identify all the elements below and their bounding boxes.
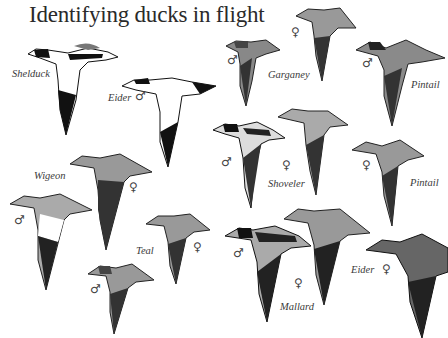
male-symbol: ♂ <box>135 89 146 103</box>
male-symbol: ♂ <box>227 53 238 67</box>
wigeon-male-illustration <box>10 190 92 290</box>
male-symbol: ♂ <box>233 246 244 260</box>
label-eider-male: Eider <box>108 92 131 103</box>
label-mallard: Mallard <box>280 301 314 312</box>
female-symbol: ♀ <box>291 25 300 39</box>
mallard-female-illustration <box>284 205 370 305</box>
label-shelduck: Shelduck <box>12 68 50 79</box>
male-symbol: ♂ <box>90 282 101 296</box>
female-symbol: ♀ <box>193 240 202 254</box>
female-symbol: ♀ <box>129 180 138 194</box>
female-symbol: ♀ <box>294 276 303 290</box>
label-eider-female: Eider <box>351 264 374 275</box>
eider-female-illustration <box>366 232 448 338</box>
teal-male-illustration <box>88 260 154 334</box>
shoveler-female-illustration <box>278 105 348 195</box>
page-title: Identifying ducks in flight <box>29 2 264 28</box>
female-symbol: ♀ <box>382 262 391 276</box>
male-symbol: ♂ <box>362 56 373 70</box>
female-symbol: ♀ <box>362 158 371 172</box>
male-symbol: ♂ <box>221 155 232 169</box>
shelduck-illustration <box>28 40 123 140</box>
label-wigeon: Wigeon <box>34 170 66 181</box>
female-symbol: ♀ <box>282 158 291 172</box>
garganey-female-illustration <box>296 6 358 81</box>
male-symbol: ♂ <box>14 213 25 227</box>
label-teal: Teal <box>136 245 154 256</box>
label-pintail-male: Pintail <box>411 79 440 90</box>
label-pintail-female: Pintail <box>410 177 439 188</box>
